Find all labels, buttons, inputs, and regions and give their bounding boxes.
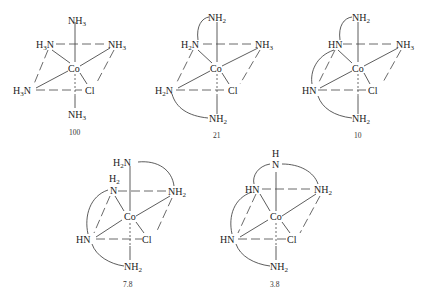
metal-center: Co: [210, 63, 222, 74]
ligand-upper-left: H2N: [181, 39, 199, 52]
structure-5: H N HN NH2 Co HN Cl NH2 3.8: [220, 148, 332, 289]
ligand-upper-right: NH3: [255, 39, 273, 52]
structure-2: NH2 H2N NH3 Co H2N Cl NH2 21: [155, 12, 273, 140]
ligand-lower-right: Cl: [142, 234, 152, 245]
ligand-upper-right: NH3: [108, 39, 126, 52]
ligand-upper-left: HN: [245, 184, 259, 195]
caption-value: 10: [354, 131, 362, 140]
structure-4: H2N H2 N NH2 Co HN Cl NH2 7.8: [76, 157, 186, 289]
metal-center: Co: [68, 63, 80, 74]
ligand-lower-left: H2N: [155, 85, 173, 98]
ligand-top: N: [272, 159, 279, 170]
ligand-lower-left: HN: [220, 234, 234, 245]
structure-1: NH3 H3N NH3 Co H3N Cl NH3 100: [13, 15, 126, 137]
ligand-upper-left: H3N: [36, 39, 54, 52]
ligand-bottom: NH2: [352, 113, 370, 126]
ligand-lower-right: Cl: [85, 85, 95, 96]
metal-center: Co: [270, 211, 282, 222]
metal-center: Co: [124, 211, 136, 222]
ligand-upper-left: HN: [328, 39, 342, 50]
caption-value: 100: [69, 128, 81, 137]
ligand-bottom: NH2: [270, 261, 288, 274]
ligand-upper-right: NH2: [168, 186, 186, 199]
ligand-upper-right: NH2: [314, 184, 332, 197]
ligand-top: NH2: [352, 12, 370, 25]
ligand-top: H2N: [113, 157, 131, 170]
ligand-lower-left: H3N: [13, 85, 31, 98]
ligand-lower-left: HN: [76, 234, 90, 245]
metal-center: Co: [352, 63, 364, 74]
ligand-bottom: NH2: [124, 261, 142, 274]
structure-3: NH2 HN NH3 Co HN Cl NH2 10: [302, 12, 414, 140]
caption-value: 3.8: [270, 280, 280, 289]
ligand-top-h: H: [272, 148, 279, 159]
ligand-bottom: NH2: [209, 113, 227, 126]
ligand-upper-right: NH3: [396, 39, 414, 52]
complex-diagram: NH3 H3N NH3 Co H3N Cl NH3 100 NH2 H2N NH…: [0, 0, 428, 297]
ligand-lower-right: Cl: [368, 85, 378, 96]
ligand-top: NH3: [68, 15, 86, 28]
ligand-upper-left: N: [110, 185, 117, 196]
caption-value: 21: [213, 131, 221, 140]
ligand-lower-right: Cl: [228, 85, 238, 96]
ligand-lower-right: Cl: [287, 234, 297, 245]
ligand-bottom: NH3: [68, 109, 86, 122]
caption-value: 7.8: [123, 280, 133, 289]
ligand-lower-left: HN: [302, 85, 316, 96]
